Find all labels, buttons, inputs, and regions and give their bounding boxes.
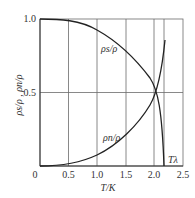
y-tick-0.5: 0.5 [24,87,37,98]
superfluid-density-chart: 1.0 0.5 0 0.5 1.0 1.5 2.0 2.5 T/K ρs/ρ ,… [0,0,195,198]
x-tick-1.0: 1.0 [91,169,104,180]
x-axis-label: T/K [100,182,116,193]
x-tick-0.5: 0.5 [62,169,75,180]
rho-n-label: ρn/ρ [102,132,121,143]
t-lambda-label: Tλ [168,154,179,165]
rho-s-label: ρs/ρ [100,43,117,54]
x-tick-2.0: 2.0 [148,169,161,180]
x-tick-1.5: 1.5 [120,169,133,180]
x-tick-0: 0 [33,169,38,180]
x-tick-2.5: 2.5 [177,169,190,180]
y-tick-1.0: 1.0 [24,13,37,24]
rho-n-curve [40,40,165,166]
y-axis-label: ρs/ρ , ρn/ρ [13,74,24,116]
